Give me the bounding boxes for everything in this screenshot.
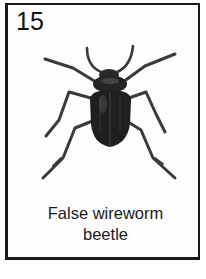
caption-line-1: False wireworm xyxy=(8,203,203,224)
insect-card: 15 False wireworm beetl xyxy=(5,3,200,260)
card-caption: False wireworm beetle xyxy=(8,203,203,245)
caption-line-2: beetle xyxy=(8,224,203,245)
